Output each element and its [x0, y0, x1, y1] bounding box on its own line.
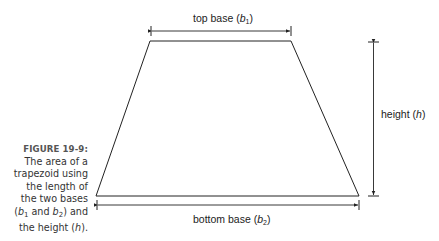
caption-line: the length of: [26, 181, 88, 192]
figure-caption: FIGURE 19-9: The area of a trapezoid usi…: [2, 143, 88, 234]
caption-line: (b1 and b2) and: [14, 206, 88, 217]
bottom-base-label: bottom base (b2): [193, 213, 270, 226]
caption-line: trapezoid using: [14, 168, 88, 179]
figure-number: FIGURE 19-9:: [2, 143, 88, 156]
height-label: height (h): [381, 108, 425, 120]
top-base-dimension-arrow: [151, 26, 291, 36]
trapezoid-shape: [96, 41, 359, 196]
caption-line: The area of a: [24, 156, 88, 167]
caption-line: the height (h).: [19, 222, 88, 233]
top-base-label: top base (b1): [193, 12, 253, 25]
height-dimension-arrow: [368, 42, 379, 196]
bottom-base-dimension-arrow: [97, 200, 359, 210]
caption-line: the two bases: [21, 193, 88, 204]
